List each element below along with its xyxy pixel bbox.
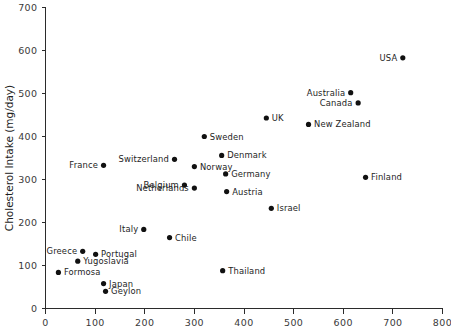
point-label: Formosa [64,267,101,277]
point-marker [80,249,85,254]
chart-canvas: 0100200300400500600700 01002003004005006… [0,0,451,336]
point-marker [56,270,61,275]
point-marker [167,235,172,240]
point-marker [103,289,108,294]
point-label: UK [272,113,284,123]
y-tick-label: 500 [18,88,37,99]
point-marker [306,122,311,127]
point-label: Geylon [111,286,141,296]
y-tick-label: 0 [31,303,37,314]
x-tick-label: 600 [334,317,353,328]
point-marker [172,157,177,162]
point-label: Italy [119,224,138,234]
point-label: Israel [277,203,301,213]
point-marker [264,115,269,120]
data-point: New Zealand [306,119,371,129]
y-axis-title: Cholesterol Intake (mg/day) [3,85,15,231]
point-label: Canada [320,98,353,108]
point-marker [192,186,197,191]
y-tick-label: 100 [18,260,37,271]
point-marker [224,189,229,194]
point-label: Australia [307,88,345,98]
data-points-group: USAAustraliaCanadaUKNew ZealandSwedenDen… [47,53,406,296]
y-tick-label: 200 [18,217,37,228]
data-point: Chile [167,233,197,243]
data-point: Australia [307,88,354,98]
point-marker [101,163,106,168]
scatter-chart: 0100200300400500600700 01002003004005006… [0,0,451,336]
point-label: Finland [371,172,402,182]
point-label: Netherlands [136,183,189,193]
point-marker [356,100,361,105]
y-axis-title-text: Cholesterol Intake (mg/day) [3,85,15,231]
x-tick-label: 700 [383,317,402,328]
data-point: France [69,160,106,170]
point-label: Denmark [227,150,267,160]
data-point: Finland [363,172,402,182]
point-marker [348,90,353,95]
data-point: Italy [119,224,146,234]
x-tick-label: 800 [433,317,451,328]
y-tick-label: 300 [18,174,37,185]
point-label: Yugoslavia [82,256,129,266]
x-tick-label: 300 [185,317,204,328]
point-label: New Zealand [314,119,371,129]
data-point: Formosa [56,267,101,277]
point-marker [75,259,80,264]
data-point: Germany [223,169,271,179]
point-marker [101,281,106,286]
point-label: USA [380,53,398,63]
point-marker [223,171,228,176]
x-tick-label: 200 [135,317,154,328]
point-label: Germany [231,169,271,179]
data-point: UK [264,113,284,123]
point-label: Sweden [210,132,244,142]
data-point: Yugoslavia [75,256,129,266]
x-tick-label: 500 [284,317,303,328]
y-tick-label: 600 [18,45,37,56]
point-marker [363,175,368,180]
data-point: Austria [224,187,263,197]
x-tick-label: 100 [85,317,104,328]
y-tick-label: 400 [18,131,37,142]
point-label: Chile [175,233,197,243]
point-marker [220,268,225,273]
data-point: USA [380,53,406,63]
data-point: Thailand [220,266,265,276]
point-marker [400,55,405,60]
point-marker [269,206,274,211]
point-marker [141,227,146,232]
point-label: France [69,160,98,170]
data-point: Greece [47,246,86,256]
y-tick-label: 700 [18,2,37,13]
data-point: Switzerland [119,154,178,164]
data-point: Canada [320,98,361,108]
point-label: Austria [232,187,263,197]
data-point: Denmark [219,150,267,160]
x-axis-ticks: 0100200300400500600700800 [42,309,451,328]
point-label: Greece [47,246,78,256]
point-label: Switzerland [119,154,170,164]
point-label: Thailand [227,266,265,276]
point-marker [219,153,224,158]
x-tick-label: 400 [234,317,253,328]
point-marker [192,164,197,169]
data-point: Netherlands [136,183,197,193]
data-point: Israel [269,203,301,213]
point-marker [202,134,207,139]
y-axis-ticks: 0100200300400500600700 [18,2,45,314]
data-point: Norway [192,162,233,172]
x-tick-label: 0 [42,317,48,328]
point-label: Norway [200,162,233,172]
data-point: Sweden [202,132,244,142]
